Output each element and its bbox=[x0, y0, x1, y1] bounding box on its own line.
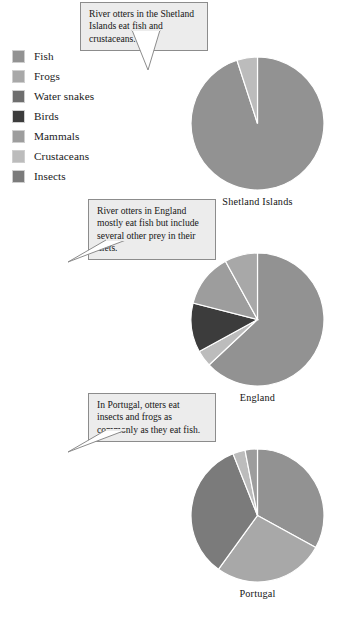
legend-swatch-birds bbox=[12, 110, 25, 123]
legend-label-frogs: Frogs bbox=[34, 70, 60, 83]
callout-shetland: River otters in the Shetland Islands eat… bbox=[80, 2, 208, 51]
legend-swatch-water-snakes bbox=[12, 90, 25, 103]
pie-chart-shetland: Shetland Islands bbox=[190, 56, 325, 207]
legend-item-crustaceans: Crustaceans bbox=[12, 146, 132, 166]
legend-swatch-crustaceans bbox=[12, 150, 25, 163]
legend-item-birds: Birds bbox=[12, 106, 132, 126]
legend-item-insects: Insects bbox=[12, 166, 132, 186]
legend-label-birds: Birds bbox=[34, 110, 59, 123]
legend-swatch-insects bbox=[12, 170, 25, 183]
pie-caption-england: England bbox=[190, 392, 325, 403]
pie-svg-portugal bbox=[190, 448, 325, 583]
legend: Fish Frogs Water snakes Birds Mammals Cr… bbox=[12, 46, 132, 186]
legend-swatch-mammals bbox=[12, 130, 25, 143]
legend-label-water-snakes: Water snakes bbox=[34, 90, 94, 103]
legend-item-frogs: Frogs bbox=[12, 66, 132, 86]
legend-item-water-snakes: Water snakes bbox=[12, 86, 132, 106]
pie-svg-england bbox=[190, 252, 325, 387]
pie-chart-portugal: Portugal bbox=[190, 448, 325, 599]
pie-caption-shetland: Shetland Islands bbox=[190, 196, 325, 207]
legend-label-mammals: Mammals bbox=[34, 130, 79, 143]
legend-label-crustaceans: Crustaceans bbox=[34, 150, 89, 163]
pie-svg-shetland bbox=[190, 56, 325, 191]
legend-swatch-fish bbox=[12, 50, 25, 63]
legend-item-mammals: Mammals bbox=[12, 126, 132, 146]
pie-chart-england: England bbox=[190, 252, 325, 403]
legend-swatch-frogs bbox=[12, 70, 25, 83]
callout-england: River otters in England mostly eat fish … bbox=[88, 199, 216, 260]
legend-label-insects: Insects bbox=[34, 170, 66, 183]
legend-label-fish: Fish bbox=[34, 50, 54, 63]
pie-caption-portugal: Portugal bbox=[190, 588, 325, 599]
